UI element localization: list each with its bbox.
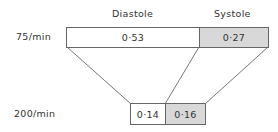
row-label-200: 200/min [14, 108, 55, 119]
cell-200-diastole: 0·14 [130, 103, 166, 125]
cell-200-systole: 0·16 [165, 103, 206, 125]
value-200-systole: 0·16 [174, 109, 196, 120]
header-diastole: Diastole [112, 8, 153, 19]
value-75-diastole: 0·53 [122, 32, 144, 43]
row-label-75: 75/min [16, 31, 51, 42]
header-systole: Systole [214, 8, 251, 19]
cell-75-systole: 0·27 [199, 27, 269, 48]
cell-75-diastole: 0·53 [66, 27, 200, 48]
value-200-diastole: 0·14 [137, 109, 159, 120]
value-75-systole: 0·27 [223, 32, 245, 43]
